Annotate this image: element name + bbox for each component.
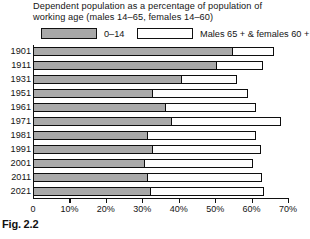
chart-title-line-2: working age (males 14–65, females 14–60) <box>33 12 305 23</box>
x-axis-tick-label: 20% <box>97 204 115 214</box>
y-axis-label: 1951 <box>11 88 31 98</box>
bar-segment-young <box>33 47 232 56</box>
x-axis-tick-label: 70% <box>279 204 297 214</box>
bar-row <box>33 75 237 84</box>
bar-segment-old <box>171 117 280 126</box>
legend-item-young: 0–14 <box>41 26 124 41</box>
y-axis-label: 2001 <box>11 158 31 168</box>
bar-segment-young <box>33 145 152 154</box>
x-axis-tick-label: 0 <box>30 204 35 214</box>
bar-row <box>33 173 262 182</box>
bar-segment-young <box>33 131 147 140</box>
x-axis-tick-label: 10% <box>60 204 78 214</box>
bar-row <box>33 131 256 140</box>
bar-row <box>33 47 274 56</box>
bar-segment-young <box>33 187 150 196</box>
bar-segment-old <box>144 159 253 168</box>
y-axis-label: 1911 <box>11 60 31 70</box>
x-axis-tick-label: 50% <box>206 204 224 214</box>
y-axis-label: 1901 <box>11 46 31 56</box>
x-axis-tick <box>106 198 107 203</box>
bar-row <box>33 89 248 98</box>
legend-item-old: Males 65 + & females 60 + <box>137 26 309 41</box>
bar-row <box>33 61 263 70</box>
x-axis-tick-label: 30% <box>133 204 151 214</box>
y-axis-label: 1991 <box>11 144 31 154</box>
bar-segment-young <box>33 75 181 84</box>
bar-segment-old <box>165 103 256 112</box>
y-axis-label: 2011 <box>11 172 31 182</box>
chart-legend: 0–14 Males 65 + & females 60 + <box>33 26 305 41</box>
bar-segment-young <box>33 61 216 70</box>
bar-segment-old <box>216 61 263 70</box>
figure-caption: Fig. 2.2 <box>2 218 38 230</box>
x-axis-tick <box>142 198 143 203</box>
bar-segment-young <box>33 89 152 98</box>
x-axis-tick <box>252 198 253 203</box>
bar-row <box>33 145 261 154</box>
bar-row <box>33 159 253 168</box>
x-axis-tick <box>288 198 289 203</box>
x-axis-tick <box>215 198 216 203</box>
bar-row <box>33 187 264 196</box>
bar-segment-young <box>33 159 144 168</box>
bar-segment-old <box>150 187 264 196</box>
bar-row <box>33 103 256 112</box>
bar-segment-young <box>33 173 147 182</box>
legend-label-old: Males 65 + & females 60 + <box>200 29 309 39</box>
bar-segment-old <box>181 75 237 84</box>
bar-segment-old <box>147 173 262 182</box>
bar-segment-old <box>152 89 247 98</box>
x-axis-tick <box>179 198 180 203</box>
plot-area: 010%20%30%40%50%60%70% <box>33 45 288 198</box>
y-axis-label: 1931 <box>11 74 31 84</box>
bar-segment-old <box>147 131 256 140</box>
y-axis: 1901191119311951196119711981199120012011… <box>0 45 31 198</box>
legend-swatch-icon-young <box>41 28 97 39</box>
chart-title-line-1: Dependent population as a percentage of … <box>33 1 305 12</box>
x-axis-tick <box>69 198 70 203</box>
y-axis-label: 2021 <box>11 186 31 196</box>
legend-swatch-icon-old <box>137 28 193 39</box>
bar-segment-old <box>232 47 274 56</box>
bar-segment-young <box>33 103 165 112</box>
x-axis-tick-label: 40% <box>170 204 188 214</box>
bar-segment-young <box>33 117 171 126</box>
page-title: Dependent population as a percentage of … <box>33 1 305 23</box>
y-axis-label: 1961 <box>11 102 31 112</box>
y-axis-label: 1981 <box>11 130 31 140</box>
y-axis-label: 1971 <box>11 116 31 126</box>
bar-row <box>33 117 281 126</box>
x-axis-tick-label: 60% <box>243 204 261 214</box>
bar-segment-old <box>152 145 262 154</box>
legend-label-young: 0–14 <box>104 29 124 39</box>
